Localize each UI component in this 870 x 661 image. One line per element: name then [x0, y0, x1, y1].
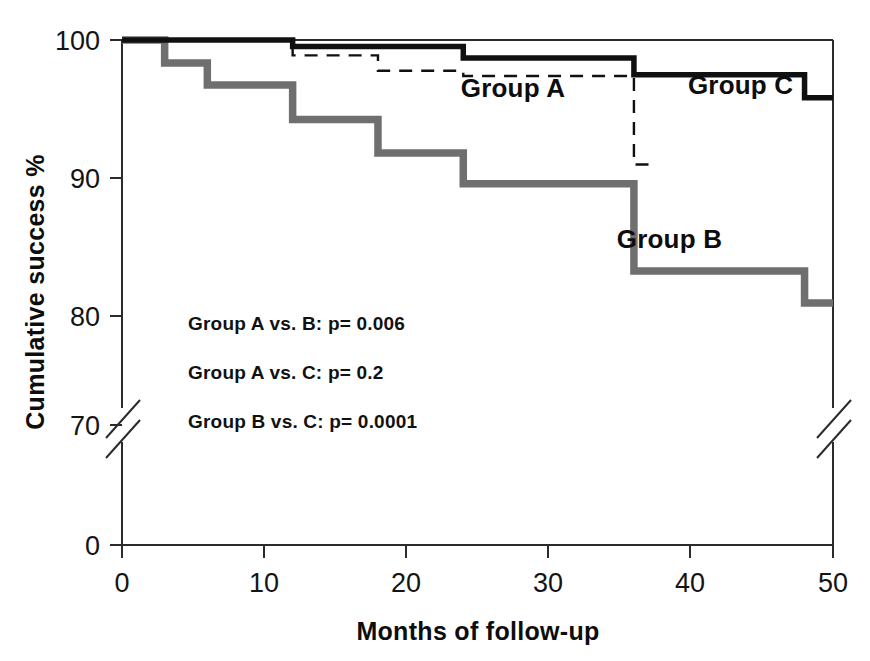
axes-group — [106, 40, 851, 558]
y-tick-label-80: 80 — [70, 302, 100, 332]
x-tick-label-20: 20 — [391, 568, 421, 598]
x-axis-title: Months of follow-up — [356, 617, 599, 645]
p-value-a-vs-b: Group A vs. B: p= 0.006 — [188, 313, 405, 334]
y-tick-label-100: 100 — [55, 26, 100, 56]
series-label-group-b: Group B — [617, 224, 722, 254]
y-tick-label-0: 0 — [85, 531, 100, 561]
p-value-annotations: Group A vs. B: p= 0.006 Group A vs. C: p… — [188, 313, 417, 432]
x-tick-label-0: 0 — [114, 568, 129, 598]
x-tick-labels: 0 10 20 30 40 50 — [114, 568, 848, 598]
x-tick-label-40: 40 — [675, 568, 705, 598]
x-tick-label-50: 50 — [818, 568, 848, 598]
series-label-group-a: Group A — [461, 73, 565, 103]
x-tick-label-10: 10 — [249, 568, 279, 598]
y-tick-label-90: 90 — [70, 164, 100, 194]
p-value-a-vs-c: Group A vs. C: p= 0.2 — [188, 362, 383, 383]
x-tick-label-30: 30 — [533, 568, 563, 598]
kaplan-meier-chart: 100 90 80 70 0 0 10 20 30 40 50 Months o… — [0, 0, 870, 661]
chart-figure: 100 90 80 70 0 0 10 20 30 40 50 Months o… — [0, 0, 870, 661]
y-tick-label-70: 70 — [70, 411, 100, 441]
series-label-group-c: Group C — [688, 70, 793, 100]
y-tick-labels: 100 90 80 70 0 — [55, 26, 100, 561]
p-value-b-vs-c: Group B vs. C: p= 0.0001 — [188, 411, 417, 432]
y-axis-title: Cumulative success % — [21, 154, 49, 430]
